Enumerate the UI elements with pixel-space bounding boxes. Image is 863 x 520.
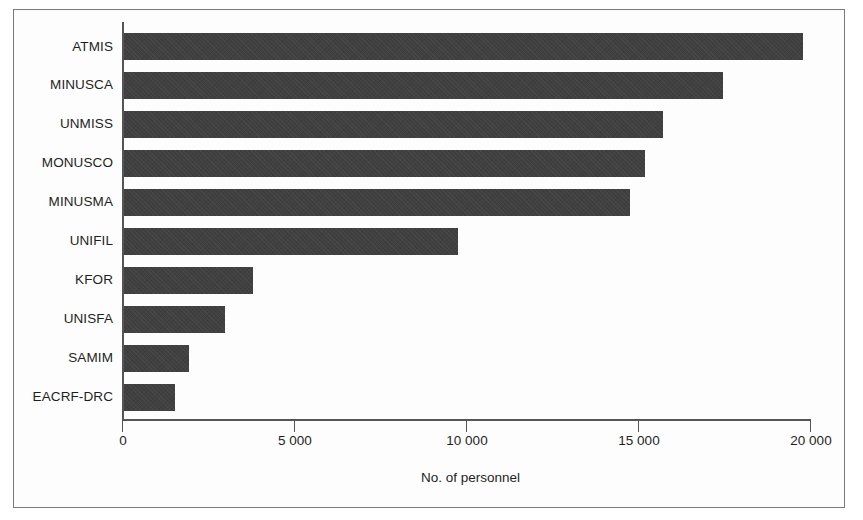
bar-samim	[124, 345, 189, 372]
bar-kfor	[124, 267, 253, 294]
category-label-atmis: ATMIS	[0, 40, 113, 54]
figure: ATMIS MINUSCA UNMISS MONUSCO MINUSMA UNI…	[0, 0, 863, 520]
category-label-minusma: MINUSMA	[0, 195, 113, 209]
bar-minusca	[124, 72, 723, 99]
x-tick-10000	[466, 421, 467, 432]
x-axis-title-text: No. of personnel	[421, 470, 520, 485]
bar-eacrf-drc	[124, 384, 175, 411]
bar-unmiss	[124, 111, 663, 138]
x-tick-label-0: 0	[43, 434, 203, 448]
x-tick-0	[122, 421, 123, 432]
bar-minusma	[124, 189, 630, 216]
category-label-unmiss: UNMISS	[0, 117, 113, 131]
bar-unifil	[124, 228, 458, 255]
x-tick-label-10000: 10 000	[387, 434, 547, 448]
x-tick-label-15000: 15 000	[559, 434, 719, 448]
x-tick-5000	[294, 421, 295, 432]
category-label-unisfa: UNISFA	[0, 312, 113, 326]
category-label-kfor: KFOR	[0, 273, 113, 287]
x-tick-label-20000: 20 000	[731, 434, 863, 448]
category-label-unifil: UNIFIL	[0, 234, 113, 248]
x-tick-15000	[638, 421, 639, 432]
x-axis-title: No. of personnel	[0, 470, 863, 485]
category-label-samim: SAMIM	[0, 351, 113, 365]
x-tick-20000	[810, 421, 811, 432]
category-label-monusco: MONUSCO	[0, 156, 113, 170]
bar-atmis	[124, 33, 803, 60]
category-label-eacrf-drc: EACRF-DRC	[0, 390, 113, 404]
bar-monusco	[124, 150, 645, 177]
bar-chart-plot-area: ATMIS MINUSCA UNMISS MONUSCO MINUSMA UNI…	[0, 0, 863, 520]
category-label-minusca: MINUSCA	[0, 78, 113, 92]
x-tick-label-5000: 5 000	[215, 434, 375, 448]
bar-unisfa	[124, 306, 225, 333]
